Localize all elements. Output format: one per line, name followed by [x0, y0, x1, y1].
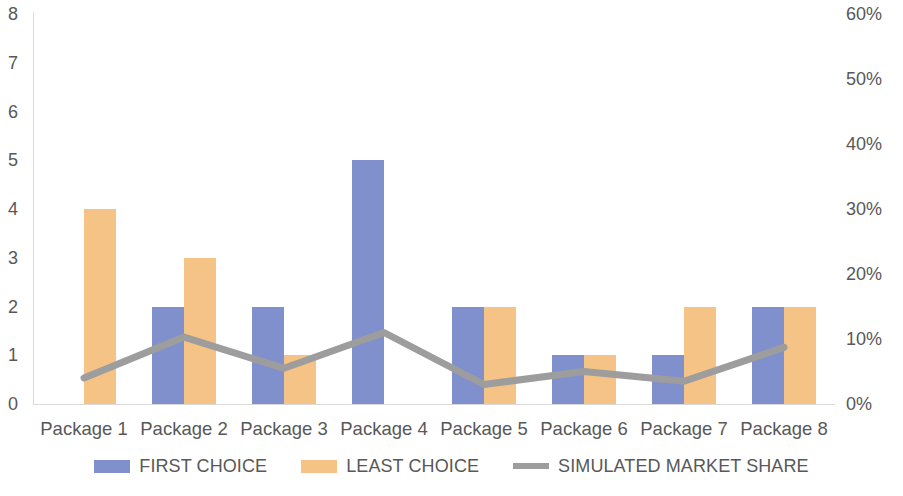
bar-group	[334, 14, 434, 404]
legend-item[interactable]: FIRST CHOICE	[94, 456, 267, 476]
bar-first-choice[interactable]	[252, 307, 284, 405]
bar-first-choice[interactable]	[152, 307, 184, 405]
bar-least-choice[interactable]	[684, 307, 716, 405]
bar-first-choice[interactable]	[552, 355, 584, 404]
x-axis-label: Package 7	[634, 416, 734, 444]
bar-least-choice[interactable]	[284, 355, 316, 404]
bar-group	[34, 14, 134, 404]
x-axis-label: Package 3	[234, 416, 334, 444]
bar-least-choice[interactable]	[484, 307, 516, 405]
legend-square-icon	[301, 460, 337, 473]
y-axis-left-tick: 4	[8, 200, 18, 218]
y-axis-left-tick: 5	[8, 151, 18, 169]
legend-square-icon	[94, 460, 130, 473]
y-axis-left-tick: 8	[8, 5, 18, 23]
y-axis-left-tick: 2	[8, 298, 18, 316]
legend-item[interactable]: SIMULATED MARKET SHARE	[513, 456, 809, 476]
legend-label: SIMULATED MARKET SHARE	[558, 456, 809, 476]
x-axis-label: Package 8	[734, 416, 834, 444]
y-axis-left-tick: 0	[8, 395, 18, 413]
bar-least-choice[interactable]	[584, 355, 616, 404]
y-axis-right-tick: 60%	[846, 5, 882, 23]
legend-line-icon	[513, 463, 549, 469]
combo-chart: 012345678 0%10%20%30%40%50%60% Package 1…	[0, 0, 903, 496]
bar-group	[434, 14, 534, 404]
bar-group	[134, 14, 234, 404]
y-axis-left-tick: 7	[8, 54, 18, 72]
y-axis-left-tick: 6	[8, 103, 18, 121]
bars-layer	[34, 14, 834, 404]
y-axis-right-tick: 30%	[846, 200, 882, 218]
bar-least-choice[interactable]	[84, 209, 116, 404]
bar-group	[634, 14, 734, 404]
x-axis-line	[33, 404, 835, 405]
y-axis-right-tick: 40%	[846, 135, 882, 153]
x-axis-label: Package 6	[534, 416, 634, 444]
bar-first-choice[interactable]	[652, 355, 684, 404]
bar-group	[534, 14, 634, 404]
y-axis-right-tick: 20%	[846, 265, 882, 283]
bar-first-choice[interactable]	[352, 160, 384, 404]
bar-first-choice[interactable]	[752, 307, 784, 405]
legend-label: LEAST CHOICE	[346, 456, 479, 476]
y-axis-left-tick: 3	[8, 249, 18, 267]
x-axis-label: Package 4	[334, 416, 434, 444]
bar-group	[234, 14, 334, 404]
x-axis-category-labels: Package 1Package 2Package 3Package 4Pack…	[34, 416, 834, 444]
bar-group	[734, 14, 834, 404]
y-axis-right-tick: 50%	[846, 70, 882, 88]
y-axis-left-tick: 1	[8, 346, 18, 364]
y-axis-right-tick: 0%	[846, 395, 872, 413]
x-axis-label: Package 1	[34, 416, 134, 444]
bar-least-choice[interactable]	[784, 307, 816, 405]
x-axis-label: Package 2	[134, 416, 234, 444]
legend-label: FIRST CHOICE	[139, 456, 267, 476]
x-axis-label: Package 5	[434, 416, 534, 444]
y-axis-right-tick: 10%	[846, 330, 882, 348]
bar-first-choice[interactable]	[452, 307, 484, 405]
legend-item[interactable]: LEAST CHOICE	[301, 456, 479, 476]
bar-least-choice[interactable]	[184, 258, 216, 404]
chart-legend: FIRST CHOICELEAST CHOICESIMULATED MARKET…	[0, 456, 903, 476]
